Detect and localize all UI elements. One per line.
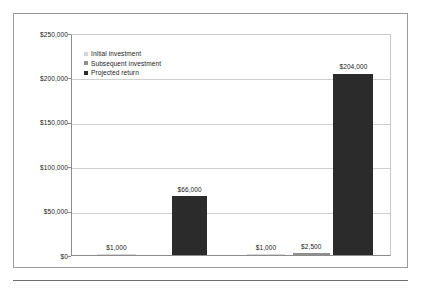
chart-legend: Initial investment Subsequent investment…	[84, 49, 161, 78]
y-tick-label: $150,000	[40, 119, 68, 126]
chart-frame: $250,000 $200,000 $150,000 $100,000 $50,…	[13, 13, 408, 268]
legend-item-projected-return[interactable]: Projected return	[84, 68, 161, 78]
legend-swatch-icon	[84, 52, 88, 56]
bar-projected-return-group2[interactable]	[333, 74, 373, 255]
y-tick-label: $200,000	[40, 75, 68, 82]
y-axis: $250,000 $200,000 $150,000 $100,000 $50,…	[14, 34, 68, 256]
horizontal-rule	[13, 280, 408, 281]
y-tick-mark	[67, 256, 71, 257]
bar-subsequent-investment-group2[interactable]	[293, 253, 330, 255]
legend-swatch-icon	[84, 71, 88, 75]
legend-swatch-icon	[84, 61, 88, 65]
legend-item-subsequent-investment[interactable]: Subsequent investment	[84, 59, 161, 69]
bar-value-label: $204,000	[323, 63, 383, 71]
bar-value-label: $2,500	[290, 243, 333, 251]
y-tick-label: $100,000	[40, 164, 68, 171]
legend-item-initial-investment[interactable]: Initial investment	[84, 49, 161, 59]
bar-initial-investment-group1[interactable]	[97, 254, 135, 255]
y-tick-label: $50,000	[44, 208, 68, 215]
bar-value-label: $1,000	[247, 244, 285, 252]
bar-value-label: $66,000	[161, 186, 218, 194]
bar-value-label: $1,000	[97, 244, 135, 252]
y-tick-label: $250,000	[40, 31, 68, 38]
legend-item-label: Projected return	[91, 68, 139, 78]
bar-initial-investment-group2[interactable]	[247, 254, 285, 255]
legend-item-label: Subsequent investment	[91, 59, 161, 69]
legend-item-label: Initial investment	[91, 49, 141, 59]
bar-projected-return-group1[interactable]	[172, 196, 207, 255]
